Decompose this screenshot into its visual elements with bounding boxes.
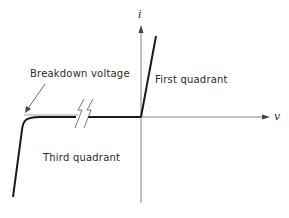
third-quadrant-label: Third quadrant — [43, 152, 120, 163]
v-axis-arrow-icon — [262, 115, 270, 120]
i-axis-label: i — [138, 8, 142, 21]
first-quadrant-label: First quadrant — [155, 74, 228, 85]
v-axis-label: v — [274, 110, 280, 123]
axis-break-icon — [75, 99, 93, 128]
iv-characteristic-diagram — [0, 0, 289, 218]
forward-curve — [141, 36, 156, 117]
breakdown-voltage-label: Breakdown voltage — [30, 68, 130, 79]
breakdown-arrow-icon — [25, 84, 45, 113]
i-axis-arrow-icon — [139, 25, 144, 33]
